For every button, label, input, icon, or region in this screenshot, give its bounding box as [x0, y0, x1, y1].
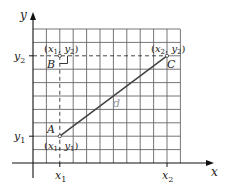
x-axis-label: x — [211, 165, 218, 179]
point-c-label: C — [167, 58, 176, 71]
x1-tick-label: x1 — [55, 169, 66, 184]
distance-diagram: y x y2 y1 x1 x2 B C A (x1, y2) (x2, y2) … — [0, 0, 229, 189]
y2-tick-label: y2 — [13, 50, 25, 65]
point-a — [58, 135, 61, 138]
point-b-label: B — [46, 58, 55, 71]
y-axis-arrow-icon — [30, 12, 36, 20]
y-axis-label: y — [19, 8, 27, 22]
y1-tick-label: y1 — [13, 130, 25, 145]
point-c — [165, 54, 168, 57]
x2-tick-label: x2 — [162, 169, 173, 184]
point-a-label: A — [46, 123, 55, 136]
point-b — [58, 54, 61, 57]
segment-d-label: d — [113, 97, 120, 110]
